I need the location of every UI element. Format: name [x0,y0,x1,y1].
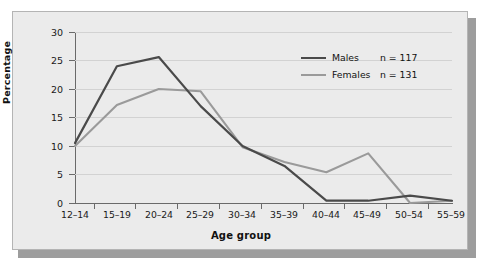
legend-label-females: Females [332,69,380,80]
legend-entry-males: Males n = 117 [301,49,453,66]
x-tick-label: 40–44 [303,210,349,219]
chart-panel: Percentage 30 25 20 15 10 5 0 12–14 15–1… [12,11,468,250]
x-tick-mark [386,204,387,209]
y-tick-label: 30 [37,28,63,38]
x-tick-mark [94,204,95,209]
x-tick-label: 15–19 [94,210,140,219]
y-tick-label: 10 [37,142,63,152]
x-tick-mark [344,204,345,209]
chart-legend: Males n = 117 Females n = 131 [301,49,453,83]
legend-n-males: n = 117 [380,52,417,63]
legend-swatch-females-icon [301,74,326,76]
x-tick-label: 35–39 [261,210,307,219]
figure-root: Percentage 30 25 20 15 10 5 0 12–14 15–1… [0,0,485,265]
y-tick-label: 5 [37,170,63,180]
x-tick-mark [219,204,220,209]
x-tick-label: 20–24 [136,210,182,219]
y-tick-label: 20 [37,85,63,95]
x-tick-mark [428,204,429,209]
x-tick-label: 45–49 [344,210,390,219]
x-axis-spine [75,203,453,204]
legend-swatch-males-icon [301,57,326,59]
x-tick-label: 12–14 [52,210,98,219]
legend-n-females: n = 131 [380,69,417,80]
y-tick-label: 15 [37,113,63,123]
y-axis-title: Percentage [1,41,12,104]
y-tick-label: 25 [37,56,63,66]
legend-label-males: Males [332,52,380,63]
x-tick-mark [303,204,304,209]
y-tick-label: 0 [37,199,63,209]
x-tick-mark [261,204,262,209]
x-tick-mark [135,204,136,209]
legend-entry-females: Females n = 131 [301,66,453,83]
x-tick-label: 50–54 [386,210,432,219]
x-tick-label: 30–34 [219,210,265,219]
x-tick-mark [177,204,178,209]
x-tick-label: 55–59 [428,210,474,219]
series-line-females [75,89,452,203]
x-tick-label: 25–29 [177,210,223,219]
x-axis-title: Age group [13,230,469,241]
